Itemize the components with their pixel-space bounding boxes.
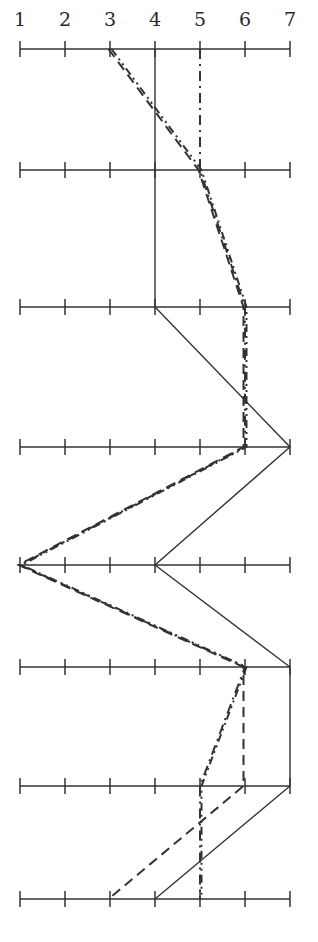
- row-scale-6: [20, 659, 290, 675]
- profile-chart: 1234567: [0, 0, 318, 942]
- series-dash-dot: [20, 49, 245, 899]
- tick-label-3: 3: [104, 8, 116, 30]
- series-dash-dot-dot: [22, 49, 247, 899]
- series-solid: [155, 49, 290, 899]
- series-dashed: [19, 49, 244, 899]
- tick-label-2: 2: [59, 8, 71, 30]
- tick-label-7: 7: [284, 8, 296, 30]
- tick-label-5: 5: [194, 8, 206, 30]
- row-scale-4: [20, 439, 290, 455]
- row-scale-7: [20, 778, 290, 794]
- tick-label-6: 6: [239, 8, 251, 30]
- tick-label-1: 1: [14, 8, 26, 30]
- scale-tick-labels: 1234567: [14, 8, 296, 30]
- tick-label-4: 4: [149, 8, 161, 30]
